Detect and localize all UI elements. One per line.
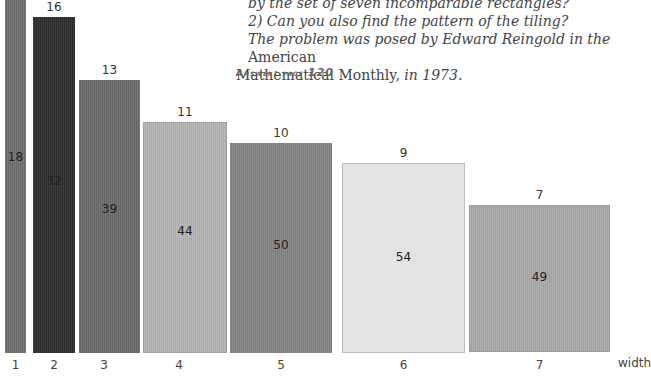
bar-5: 50 <box>230 143 332 353</box>
bar-height-label: 10 <box>230 126 332 140</box>
x-tick-label: 3 <box>79 358 129 372</box>
answer-reference: Answer: page 120 <box>236 66 334 79</box>
bar-height-label: 9 <box>342 146 465 160</box>
bar-area-label: 54 <box>343 250 464 264</box>
clipped-line: by the set of seven incomparable rectang… <box>236 0 646 12</box>
bar-area-label: 50 <box>230 238 332 252</box>
credit-line: The problem was posed by Edward Reingold… <box>236 30 646 66</box>
bar-height-label: 13 <box>79 63 140 77</box>
question-2: 2) Can you also find the pattern of the … <box>236 12 646 30</box>
bar-6: 54 <box>342 163 465 353</box>
x-tick-label: 2 <box>33 358 75 372</box>
x-tick-label: 4 <box>143 358 215 372</box>
bar-3: 39 <box>79 80 140 353</box>
x-tick-label: 1 <box>5 358 26 372</box>
bar-height-label: 7 <box>469 188 610 202</box>
bar-1: 18 <box>5 0 26 353</box>
bar-area-label: 44 <box>144 224 226 238</box>
bar-area-label: 18 <box>5 150 26 164</box>
bar-2: 32 <box>33 17 75 353</box>
bar-area-label: 32 <box>33 174 75 188</box>
bar-4: 44 <box>143 122 227 353</box>
bar-area-label: 39 <box>79 202 140 216</box>
x-tick-label: 6 <box>342 358 465 372</box>
bar-height-label: 16 <box>33 0 75 14</box>
x-tick-label: 5 <box>230 358 332 372</box>
bar-area-label: 49 <box>470 270 609 284</box>
bar-7: 49 <box>469 205 610 352</box>
x-tick-label: 7 <box>469 358 610 372</box>
x-axis-title: width <box>618 356 651 370</box>
bar-height-label: 11 <box>143 105 227 119</box>
